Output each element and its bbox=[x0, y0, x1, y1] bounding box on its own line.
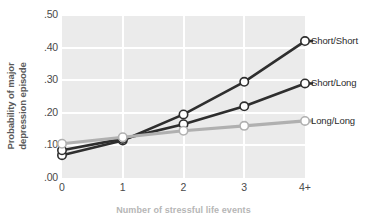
line-chart: Probability of major depression episode … bbox=[0, 0, 376, 224]
data-point-marker bbox=[58, 140, 66, 148]
data-point-marker bbox=[301, 117, 309, 125]
data-series-layer bbox=[0, 0, 376, 224]
data-point-marker bbox=[179, 127, 187, 135]
data-point-marker bbox=[240, 122, 248, 130]
data-point-marker bbox=[179, 110, 187, 118]
data-point-marker bbox=[240, 102, 248, 110]
data-point-marker bbox=[301, 37, 309, 45]
data-point-marker bbox=[301, 79, 309, 87]
data-point-marker bbox=[119, 133, 127, 141]
legend-item-short-short: Short/Short bbox=[311, 35, 358, 46]
legend-item-short-long: Short/Long bbox=[311, 77, 356, 88]
legend-item-long-long: Long/Long bbox=[311, 115, 355, 126]
data-point-marker bbox=[240, 78, 248, 86]
